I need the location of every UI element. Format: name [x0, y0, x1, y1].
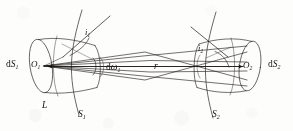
label-i1: i1: [85, 28, 90, 38]
figure-root: dS1 O1 i1 dω1 r i2 O2 dS2 L S1 S2: [0, 0, 293, 131]
label-dS2: dS2: [268, 60, 280, 71]
ray-lower-left-to-upper-right: [44, 52, 247, 80]
surface-curve-s2: [205, 12, 216, 118]
label-i2: i2: [198, 44, 203, 54]
ray-upper-left-to-upper-right: [44, 46, 247, 66]
label-L: L: [42, 101, 47, 111]
label-O2: O2: [243, 61, 252, 71]
right-tube-bottom: [197, 88, 246, 93]
label-O1: O1: [31, 60, 40, 70]
ray-upper-left-to-lower-right: [44, 52, 247, 80]
label-dS1: dS1: [6, 60, 18, 71]
normal-line-right: [191, 27, 228, 57]
left-shell-curve-a: [53, 36, 58, 96]
angle-arc-i2: [215, 52, 229, 68]
stray-stroke-left: [62, 44, 92, 59]
label-S1: S1: [78, 110, 86, 121]
label-domega1: dω1: [106, 63, 120, 74]
ray-inner-upper: [44, 61, 247, 67]
label-r: r: [154, 62, 158, 72]
ray-lower-left-to-lower-right: [44, 66, 247, 86]
left-tube-bottom: [45, 88, 97, 94]
label-S2: S2: [212, 110, 220, 121]
